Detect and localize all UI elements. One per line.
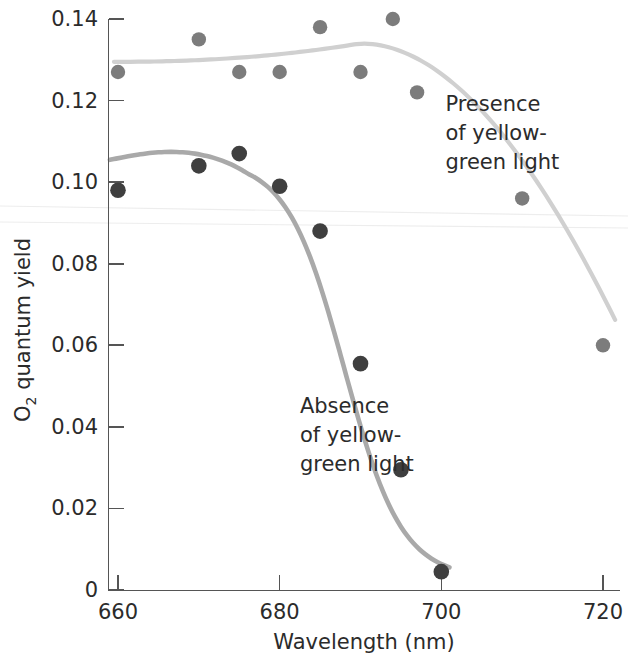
data-point xyxy=(192,32,206,46)
axis-lines xyxy=(109,19,621,591)
data-point xyxy=(272,65,286,79)
axes-group xyxy=(109,19,621,591)
y-tick-label-0.10: 0.10 xyxy=(51,170,98,194)
y-tick-label-0.14: 0.14 xyxy=(51,7,98,31)
absence-label-line: Absence xyxy=(300,394,389,418)
data-point xyxy=(111,65,125,79)
y-axis-ticks xyxy=(109,19,125,590)
y-tick-label-0.12: 0.12 xyxy=(51,89,98,113)
data-point xyxy=(386,12,400,26)
y-axis-tick-labels: 00.020.040.060.080.100.120.14 xyxy=(51,7,98,602)
data-point xyxy=(313,20,327,34)
y-tick-label-0.02: 0.02 xyxy=(51,496,98,520)
presence-label-line: of yellow- xyxy=(445,121,547,145)
presence-label-line: green light xyxy=(445,150,559,174)
data-point xyxy=(312,223,328,239)
presence-curve xyxy=(114,44,615,320)
data-point xyxy=(353,356,369,372)
presence-label: Presenceof yellow-green light xyxy=(445,92,559,174)
data-point xyxy=(410,85,424,99)
chart-figure: 00.020.040.060.080.100.120.14 6606807007… xyxy=(0,0,628,659)
y-axis-title-base: O xyxy=(11,405,35,422)
presence-label-line: Presence xyxy=(445,92,540,116)
y-tick-label-0: 0 xyxy=(85,578,98,602)
y-tick-label-0.06: 0.06 xyxy=(51,333,98,357)
data-point xyxy=(515,191,529,205)
quantum-yield-scatter-chart: 00.020.040.060.080.100.120.14 6606807007… xyxy=(0,0,628,659)
x-axis-tick-labels: 660680700720 xyxy=(98,600,623,624)
scan-artifact-lines xyxy=(0,206,628,228)
data-point xyxy=(231,146,247,162)
x-tick-label-660: 660 xyxy=(98,600,138,624)
x-tick-label-720: 720 xyxy=(583,600,623,624)
data-point xyxy=(232,65,246,79)
data-point xyxy=(353,65,367,79)
absence-label-line: green light xyxy=(300,452,414,476)
artifact-line-upper xyxy=(0,206,628,216)
svg-text:O2 quantum yield: O2 quantum yield xyxy=(11,238,39,422)
y-tick-label-0.08: 0.08 xyxy=(51,252,98,276)
data-point xyxy=(272,178,288,194)
absence-label-line: of yellow- xyxy=(300,423,402,447)
x-tick-label-680: 680 xyxy=(260,600,300,624)
y-axis-title-rest: quantum yield xyxy=(11,238,35,397)
data-point xyxy=(434,564,450,580)
absence-label: Absenceof yellow-green light xyxy=(300,394,414,476)
absence-curve xyxy=(110,152,450,567)
series-annotations: Presenceof yellow-green lightAbsenceof y… xyxy=(300,92,559,476)
y-tick-label-0.04: 0.04 xyxy=(51,415,98,439)
x-axis-ticks xyxy=(118,575,603,591)
y-axis-title-subscript: 2 xyxy=(23,397,39,406)
data-point xyxy=(596,338,610,352)
x-tick-label-700: 700 xyxy=(421,600,461,624)
data-point xyxy=(191,158,207,174)
x-axis-title: Wavelength (nm) xyxy=(273,630,454,654)
data-point xyxy=(110,183,126,199)
y-axis-title: O2 quantum yield xyxy=(11,238,39,422)
